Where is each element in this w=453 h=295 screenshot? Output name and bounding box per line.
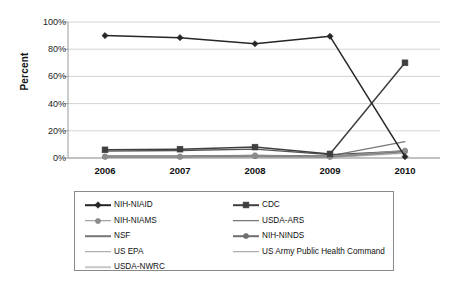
legend-swatch-icon bbox=[233, 216, 259, 226]
series-marker bbox=[252, 144, 258, 150]
series-marker bbox=[252, 41, 258, 47]
x-tick-label: 2010 bbox=[394, 165, 415, 176]
legend-item-label: NIH-NIAID bbox=[114, 200, 153, 210]
series-marker bbox=[102, 147, 108, 153]
legend-swatch-icon bbox=[85, 231, 111, 241]
x-tick-label: 2007 bbox=[169, 165, 190, 176]
legend-swatch-icon bbox=[85, 247, 111, 257]
y-tick-label: 0% bbox=[26, 153, 66, 163]
x-tick-label: 2008 bbox=[244, 165, 265, 176]
series-marker bbox=[177, 35, 183, 41]
legend-item[interactable]: US Army Public Health Command bbox=[233, 245, 385, 259]
line-chart-canvas bbox=[0, 0, 453, 186]
legend-swatch-icon bbox=[233, 200, 259, 210]
legend-item-label: US EPA bbox=[114, 247, 143, 257]
legend-item-label: CDC bbox=[262, 200, 280, 210]
legend-item[interactable]: US EPA bbox=[85, 245, 143, 259]
legend-item-label: NSF bbox=[114, 231, 130, 241]
chart-legend: NIH-NIAIDCDCNIH-NIAMSUSDA-ARSNSFNIH-NIND… bbox=[74, 191, 394, 271]
legend-marker-circle-icon bbox=[94, 216, 103, 225]
series-marker bbox=[177, 146, 183, 152]
series-marker bbox=[102, 154, 107, 159]
y-tick-label: 80% bbox=[26, 44, 66, 54]
legend-marker-diamond-icon bbox=[94, 201, 103, 210]
legend-item[interactable]: NIH-NIAMS bbox=[85, 214, 157, 228]
series-marker bbox=[177, 154, 182, 159]
x-tick-label: 2009 bbox=[319, 165, 340, 176]
legend-item-label: USDA-ARS bbox=[262, 216, 304, 226]
series-marker bbox=[402, 60, 408, 66]
y-tick-label: 100% bbox=[26, 17, 66, 27]
legend-entries: NIH-NIAIDCDCNIH-NIAMSUSDA-ARSNSFNIH-NIND… bbox=[75, 192, 393, 270]
y-tick-label: 40% bbox=[26, 99, 66, 109]
legend-item-label: US Army Public Health Command bbox=[262, 247, 385, 257]
series-line bbox=[105, 36, 405, 157]
legend-item-label: NIH-NINDS bbox=[262, 231, 304, 241]
legend-item[interactable]: NSF bbox=[85, 229, 130, 243]
y-tick-label: 60% bbox=[26, 71, 66, 81]
legend-swatch-icon bbox=[85, 200, 111, 210]
legend-swatch-icon bbox=[85, 216, 111, 226]
series-marker bbox=[327, 151, 333, 157]
legend-marker-circle-icon bbox=[242, 232, 251, 241]
series-marker bbox=[102, 33, 108, 39]
y-axis-tick-labels: 100% 80% 60% 40% 20% 0% bbox=[22, 0, 66, 186]
legend-swatch-icon bbox=[233, 231, 259, 241]
legend-item[interactable]: CDC bbox=[233, 198, 280, 212]
legend-item[interactable]: USDA-ARS bbox=[233, 214, 304, 228]
chart-figure: Percent 100% 80% 60% 40% 20% 0% 2006 200… bbox=[0, 0, 453, 295]
x-tick-label: 2006 bbox=[94, 165, 115, 176]
legend-item-label: NIH-NIAMS bbox=[114, 216, 157, 226]
legend-marker-square-icon bbox=[242, 201, 251, 210]
legend-swatch-icon bbox=[233, 247, 259, 257]
legend-item[interactable]: NIH-NIAID bbox=[85, 198, 153, 212]
y-tick-label: 20% bbox=[26, 126, 66, 136]
legend-swatch-icon bbox=[85, 262, 111, 272]
legend-item-label: USDA-NWRC bbox=[114, 262, 165, 272]
plot-area: Percent 100% 80% 60% 40% 20% 0% 2006 200… bbox=[0, 0, 453, 186]
legend-item[interactable]: NIH-NINDS bbox=[233, 229, 304, 243]
legend-item[interactable]: USDA-NWRC bbox=[85, 260, 165, 274]
series-marker bbox=[252, 153, 257, 158]
